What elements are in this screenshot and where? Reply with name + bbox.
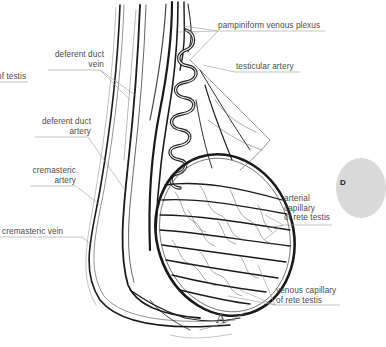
label-artery-of-testis: of testis [0,72,26,82]
label-venous-capillary: venous capillary of rete testis [276,286,336,305]
side-badge: D [336,158,386,218]
label-deferent-duct-artery: deferent duct artery [35,117,91,136]
label-line: deferent duct [35,117,91,127]
label-line: of rete testis [276,296,336,306]
label-pampiniform-venous-plexus: pampiniform venous plexus [218,21,320,31]
cremasteric-vein-path [89,5,230,327]
label-line: of rete testis [284,213,330,223]
side-badge-text: D [340,178,346,187]
label-cremasteric-artery: cremasteric artery [28,166,76,185]
label-line: vein [48,60,104,70]
label-line: venous capillary [276,286,336,296]
label-line: capillary [284,204,330,214]
label-testicular-artery: testicular artery [236,62,294,72]
label-line: artery [35,127,91,137]
label-line: artery [28,176,76,186]
label-arterial-capillary: arterial capillary of rete testis [284,194,330,223]
label-deferent-duct-vein: deferent duct vein [48,50,104,69]
label-line: deferent duct [48,50,104,60]
label-line: cremasteric [28,166,76,176]
panel-letter: A [216,311,225,326]
label-cremasteric-vein: cremasteric vein [2,227,63,237]
label-line: arterial [284,194,330,204]
